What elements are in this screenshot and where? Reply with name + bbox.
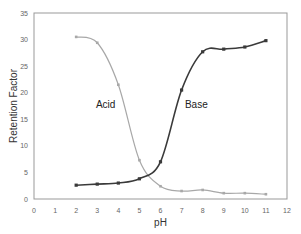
- x-tick-label: 6: [159, 207, 163, 214]
- acid-data-marker: [201, 189, 204, 192]
- base-series-line: [76, 41, 266, 186]
- base-data-marker: [159, 160, 162, 163]
- x-tick-label: 1: [53, 207, 57, 214]
- acid-data-marker: [180, 190, 183, 193]
- acid-data-marker: [265, 193, 268, 196]
- y-tick-label: 30: [20, 36, 28, 43]
- acid-series-line: [76, 37, 266, 194]
- acid-data-marker: [138, 159, 141, 162]
- y-tick-label: 5: [24, 169, 28, 176]
- acid-data-marker: [222, 192, 225, 195]
- base-data-marker: [96, 183, 99, 186]
- acid-data-marker: [244, 192, 247, 195]
- retention-factor-chart: 051015202530350123456789101112pHRetentio…: [0, 0, 301, 234]
- base-data-marker: [243, 45, 246, 48]
- y-tick-label: 15: [20, 116, 28, 123]
- x-axis-title: pH: [154, 217, 167, 228]
- base-data-marker: [264, 39, 267, 42]
- x-tick-label: 3: [95, 207, 99, 214]
- acid-annotation: Acid: [96, 99, 115, 110]
- base-data-marker: [180, 88, 183, 91]
- x-tick-label: 8: [201, 207, 205, 214]
- x-tick-label: 10: [241, 207, 249, 214]
- x-tick-label: 4: [116, 207, 120, 214]
- chart-root: 051015202530350123456789101112pHRetentio…: [0, 0, 301, 234]
- x-tick-label: 7: [180, 207, 184, 214]
- y-tick-label: 10: [20, 142, 28, 149]
- acid-data-marker: [96, 41, 99, 44]
- x-tick-label: 0: [32, 207, 36, 214]
- base-data-marker: [222, 48, 225, 51]
- x-tick-label: 5: [137, 207, 141, 214]
- x-tick-label: 12: [283, 207, 291, 214]
- y-tick-label: 0: [24, 196, 28, 203]
- acid-data-marker: [117, 83, 120, 86]
- y-tick-label: 20: [20, 89, 28, 96]
- acid-data-marker: [75, 36, 78, 39]
- y-axis-title: Retention Factor: [8, 68, 19, 143]
- acid-data-marker: [159, 185, 162, 188]
- x-tick-label: 2: [74, 207, 78, 214]
- base-data-marker: [201, 50, 204, 53]
- base-data-marker: [117, 181, 120, 184]
- x-tick-label: 11: [262, 207, 269, 214]
- x-tick-label: 9: [222, 207, 226, 214]
- plot-frame: [34, 13, 287, 199]
- base-annotation: Base: [185, 99, 208, 110]
- base-data-marker: [75, 184, 78, 187]
- base-data-marker: [138, 177, 141, 180]
- y-tick-label: 35: [20, 10, 28, 17]
- y-tick-label: 25: [20, 63, 28, 70]
